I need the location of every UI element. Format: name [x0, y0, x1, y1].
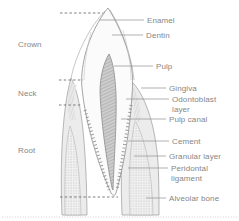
label-odontoblast-layer: Odontoblast layer	[172, 95, 228, 115]
gingiva-left-shading	[71, 84, 74, 120]
label-crown: Crown	[18, 40, 42, 50]
label-alveolar-bone: Alveolar bone	[169, 194, 219, 204]
label-dentin: Dentin	[146, 31, 170, 41]
label-root: Root	[18, 146, 35, 156]
label-peridontal-ligament: Peridontal ligament	[171, 164, 221, 184]
tooth-anatomy-diagram: Crown Neck Root Enamel Dentin Pulp Gingi…	[0, 0, 239, 221]
label-enamel: Enamel	[147, 16, 175, 26]
label-granular-layer: Granular layer	[169, 152, 221, 162]
label-pulp: Pulp	[156, 62, 172, 72]
label-cement: Cement	[172, 137, 201, 147]
label-pulp-canal: Pulp canal	[169, 115, 207, 125]
label-neck: Neck	[18, 89, 37, 99]
label-gingiva: Gingiva	[169, 84, 197, 94]
